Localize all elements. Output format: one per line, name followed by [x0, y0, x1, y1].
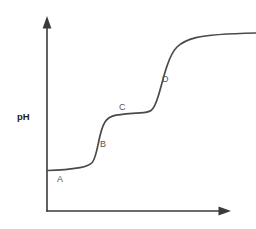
curve-label-a: A: [57, 174, 63, 184]
curve-label-b: B: [100, 139, 106, 149]
curve-label-c: C: [119, 102, 126, 112]
y-axis-label: pH: [17, 111, 30, 122]
titration-curve-figure: pH A B C D: [0, 0, 256, 229]
curve-label-d: D: [162, 74, 169, 84]
chart-canvas: pH A B C D: [0, 0, 256, 229]
